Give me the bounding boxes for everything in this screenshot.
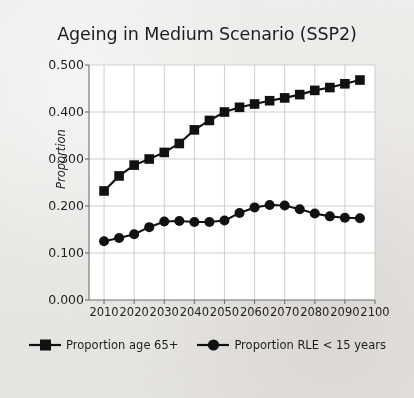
data-point-marker (310, 209, 320, 219)
legend-label: Proportion RLE < 15 years (234, 338, 386, 352)
data-point-marker (175, 139, 185, 149)
data-point-marker (114, 171, 124, 181)
data-point-marker (310, 86, 320, 96)
legend-label: Proportion age 65+ (66, 338, 178, 352)
data-point-marker (280, 93, 290, 103)
data-point-marker (205, 116, 215, 126)
data-point-marker (99, 236, 109, 246)
data-point-marker (220, 107, 230, 117)
plot-background (89, 65, 375, 300)
legend-entry-proportion-rle-under-15[interactable]: Proportion RLE < 15 years (196, 338, 386, 352)
data-point-marker (235, 103, 245, 113)
data-point-marker (340, 213, 350, 223)
data-point-marker (219, 216, 229, 226)
data-point-marker (325, 211, 335, 221)
data-point-marker (250, 202, 260, 212)
data-point-marker (235, 208, 245, 218)
data-point-marker (355, 213, 365, 223)
legend-entry-proportion-age-65[interactable]: Proportion age 65+ (28, 338, 178, 352)
chart-legend: Proportion age 65+ Proportion RLE < 15 y… (0, 338, 414, 352)
data-point-marker (144, 222, 154, 232)
data-point-marker (159, 148, 169, 158)
data-point-marker (325, 83, 335, 93)
legend-circle-marker-icon (196, 338, 230, 352)
figure-canvas: Ageing in Medium Scenario (SSP2) Proport… (0, 0, 414, 398)
data-point-marker (129, 229, 139, 239)
data-point-marker (189, 217, 199, 227)
legend-square-marker-icon (28, 338, 62, 352)
data-point-marker (99, 186, 109, 196)
data-point-marker (204, 217, 214, 227)
data-point-marker (174, 216, 184, 226)
data-point-marker (144, 154, 154, 164)
data-point-marker (250, 99, 260, 109)
data-point-marker (190, 125, 200, 135)
data-point-marker (265, 96, 275, 106)
data-point-marker (355, 75, 365, 85)
data-point-marker (340, 79, 350, 89)
data-point-marker (114, 233, 124, 243)
data-point-marker (295, 204, 305, 214)
data-point-marker (280, 201, 290, 211)
data-point-marker (295, 90, 305, 100)
data-point-marker (265, 200, 275, 210)
data-point-marker (129, 160, 139, 170)
data-point-marker (159, 217, 169, 227)
